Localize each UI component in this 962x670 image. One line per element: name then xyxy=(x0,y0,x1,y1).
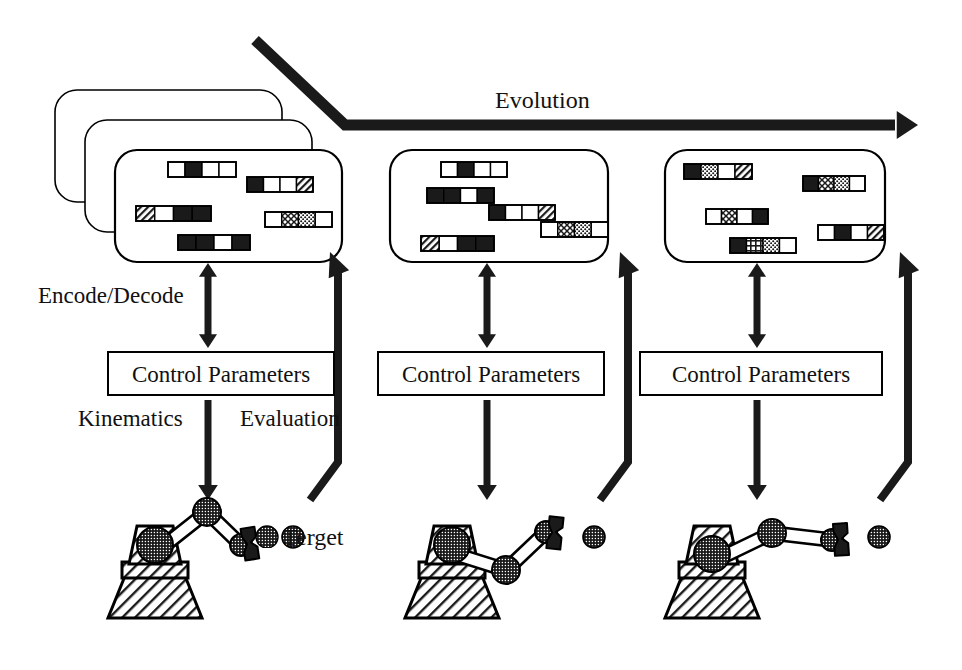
chromosome-gene-white xyxy=(718,164,735,179)
robot-elbow-joint xyxy=(758,519,786,547)
chromosome-gene-dots xyxy=(763,238,780,253)
arrow-head-down xyxy=(477,485,497,500)
chromosome xyxy=(730,238,796,253)
chromosome xyxy=(706,209,768,224)
arrow-head-down xyxy=(478,334,496,348)
chromosome xyxy=(265,212,332,227)
arrow-head-down xyxy=(747,485,767,500)
chromosome-gene-white xyxy=(780,238,797,253)
chromosome-gene-white xyxy=(818,225,835,240)
chromosome xyxy=(168,162,236,177)
chromosome-gene-black xyxy=(489,205,506,220)
target-label: Terget xyxy=(283,525,344,549)
chromosome-gene-grid xyxy=(747,238,764,253)
chromosome-gene-black xyxy=(174,206,193,221)
robot-arms-group xyxy=(108,498,890,618)
robot-elbow-joint xyxy=(193,498,221,526)
control-parameters-label-2: Control Parameters xyxy=(378,363,604,386)
chromosome-gene-black xyxy=(477,188,494,203)
kinematics-arrow-3 xyxy=(747,400,767,500)
evaluation-arrow-2 xyxy=(600,252,639,500)
arrow-head-up xyxy=(748,263,766,277)
chromosome-gene-black xyxy=(684,164,701,179)
chromosome-gene-cross xyxy=(558,222,575,237)
chromosome xyxy=(818,225,884,240)
chromosome-gene-black xyxy=(458,162,475,177)
robot-arm-3 xyxy=(665,519,890,618)
chromosome-gene-white xyxy=(214,235,232,250)
chromosome-gene-white xyxy=(850,176,866,191)
evolution-label: Evolution xyxy=(495,88,590,112)
chromosome-gene-white xyxy=(474,162,491,177)
chromosome-gene-hatch xyxy=(136,206,155,221)
robot-elbow-joint xyxy=(492,556,520,584)
chromosome-gene-black xyxy=(196,235,214,250)
kinematics-label: Kinematics xyxy=(78,407,183,430)
chromosome-gene-white xyxy=(541,222,558,237)
chromosome-gene-black xyxy=(178,235,196,250)
chromosome-gene-white xyxy=(851,225,868,240)
chromosome xyxy=(541,222,608,237)
robot-base-lower xyxy=(108,576,202,618)
arrow-shaft xyxy=(880,272,909,500)
chromosome-gene-hatch xyxy=(735,164,752,179)
chromosome-gene-white xyxy=(491,162,508,177)
chromosome-gene-black xyxy=(730,238,747,253)
chromosome-gene-white xyxy=(461,188,478,203)
chromosome-gene-hatch xyxy=(868,225,885,240)
chromosome-gene-white xyxy=(315,212,332,227)
chromosome-gene-white xyxy=(264,177,281,192)
robot-base-lower xyxy=(665,576,759,618)
chromosome-gene-white xyxy=(219,162,236,177)
chromosome-gene-white xyxy=(168,162,185,177)
chromosome xyxy=(136,206,211,221)
encode-decode-arrow-1 xyxy=(199,263,217,348)
chromosome-gene-cross xyxy=(282,212,299,227)
chromosome-gene-dots xyxy=(575,222,592,237)
chromosome-gene-white xyxy=(506,205,523,220)
target-ball xyxy=(583,526,605,548)
chromosome xyxy=(803,176,865,191)
chromosome xyxy=(441,162,507,177)
robot-arm-2 xyxy=(405,516,605,618)
chromosome xyxy=(684,164,752,179)
robot-arm-1 xyxy=(108,498,304,618)
chromosome-gene-black xyxy=(803,176,819,191)
target-legend-dot xyxy=(256,526,278,548)
chromosome-gene-black xyxy=(444,188,461,203)
chromosome-gene-black xyxy=(753,209,769,224)
chromosome-gene-cross xyxy=(819,176,835,191)
chromosome xyxy=(421,236,494,251)
chromosome-gene-white xyxy=(522,205,539,220)
chromosome-gene-black xyxy=(835,225,852,240)
control-parameters-label-3: Control Parameters xyxy=(640,363,882,386)
chromosome-gene-cross xyxy=(722,209,738,224)
robot-shoulder-joint xyxy=(694,536,730,572)
generation-panels-group xyxy=(55,90,885,262)
chromosome-gene-black xyxy=(427,188,444,203)
chromosome-gene-dots xyxy=(299,212,316,227)
control-parameters-label-1: Control Parameters xyxy=(108,363,334,386)
target-ball xyxy=(868,526,890,548)
generation-panel-2 xyxy=(390,150,608,262)
chromosome-gene-black xyxy=(232,235,250,250)
target-legend-icon xyxy=(255,524,279,548)
chromosome-gene-hatch xyxy=(297,177,314,192)
chromosome-gene-white xyxy=(155,206,174,221)
chromosome-gene-white xyxy=(202,162,219,177)
encode-decode-arrow-3 xyxy=(748,263,766,348)
diagram-vector-layer xyxy=(0,0,962,670)
arrow-head-up xyxy=(478,263,496,277)
chromosome-gene-white xyxy=(441,162,458,177)
chromosome xyxy=(427,188,494,203)
chromosome-gene-white xyxy=(706,209,722,224)
chromosome-gene-hatch xyxy=(421,236,439,251)
arrow-head-down xyxy=(199,334,217,348)
chromosome-gene-hatch xyxy=(539,205,556,220)
generation-panel-3 xyxy=(665,150,885,262)
chromosome-gene-white xyxy=(280,177,297,192)
chromosome-gene-black xyxy=(192,206,211,221)
chromosome-gene-dots xyxy=(701,164,718,179)
evaluation-arrow-3 xyxy=(880,252,919,500)
kinematics-arrow-1 xyxy=(198,400,218,500)
